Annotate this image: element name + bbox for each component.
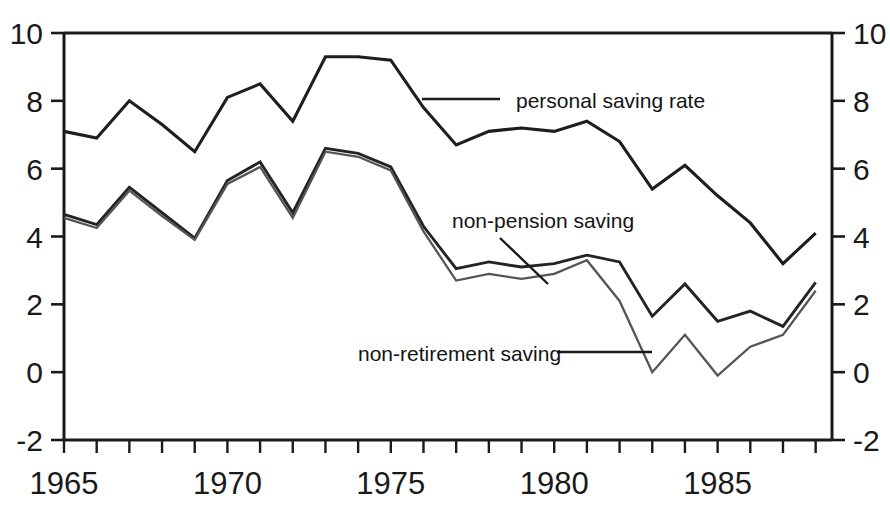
x-axis-tick-label: 1970 (193, 466, 262, 501)
chart-svg: -20246810 -20246810 19651970197519801985… (0, 0, 890, 515)
series-annotation-label: non-retirement saving (358, 342, 561, 365)
y-axis-left-tick-label: -2 (16, 424, 43, 457)
saving-rate-chart: -20246810 -20246810 19651970197519801985… (0, 0, 890, 515)
y-axis-right-tick-label: 2 (853, 288, 870, 321)
y-axis-left-tick-label: 2 (26, 288, 43, 321)
y-axis-left-tick-label: 10 (10, 17, 43, 50)
y-axis-left-tick-label: 6 (26, 153, 43, 186)
chart-background (0, 0, 890, 515)
y-axis-right-tick-label: 4 (853, 221, 870, 254)
y-axis-left-tick-label: 0 (26, 356, 43, 389)
y-axis-right-tick-label: 8 (853, 85, 870, 118)
x-axis-tick-label: 1980 (520, 466, 589, 501)
y-axis-right-tick-label: 10 (853, 17, 886, 50)
series-annotation-label: personal saving rate (516, 89, 705, 112)
x-axis-tick-label: 1985 (683, 466, 752, 501)
x-axis-tick-label: 1965 (30, 466, 99, 501)
y-axis-left-tick-label: 8 (26, 85, 43, 118)
y-axis-right-tick-label: 0 (853, 356, 870, 389)
y-axis-right-tick-label: 6 (853, 153, 870, 186)
x-axis-tick-label: 1975 (356, 466, 425, 501)
y-axis-left-tick-label: 4 (26, 221, 43, 254)
y-axis-right-tick-label: -2 (853, 424, 880, 457)
series-annotation-label: non-pension saving (452, 209, 634, 232)
